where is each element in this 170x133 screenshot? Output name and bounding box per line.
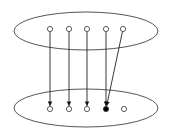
top-node-0 xyxy=(47,26,52,31)
bottom-node-1 xyxy=(66,106,71,111)
arrow-4 xyxy=(107,32,123,106)
top-node-4 xyxy=(120,26,125,31)
bottom-node-0 xyxy=(47,106,52,111)
mapping-arrows xyxy=(50,32,122,106)
bottom-node-2 xyxy=(84,106,89,111)
bottom-node-4 xyxy=(121,106,126,111)
top-node-1 xyxy=(66,26,71,31)
bottom-node-3 xyxy=(103,106,108,111)
mapping-diagram xyxy=(0,0,170,133)
top-node-2 xyxy=(84,26,89,31)
top-node-3 xyxy=(103,26,108,31)
